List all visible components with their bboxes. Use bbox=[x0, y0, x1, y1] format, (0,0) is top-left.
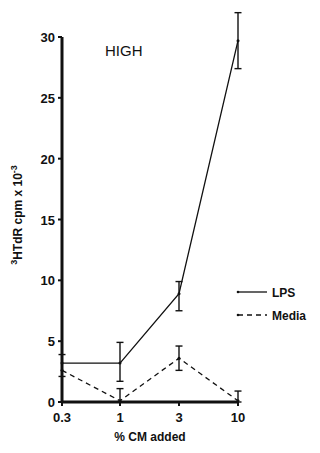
axes bbox=[61, 37, 239, 403]
y-axis-label: 3HTdR cpm x 10-3 bbox=[9, 165, 25, 265]
y-tick-label: 20 bbox=[41, 152, 55, 167]
x-ticks: 0.31310 bbox=[53, 402, 245, 425]
x-tick-label: 3 bbox=[175, 410, 182, 425]
series-line-media bbox=[62, 358, 238, 401]
chart: 051015202530 0.31310 HIGH % CM added 3HT… bbox=[0, 0, 320, 453]
legend-item-lps: LPS bbox=[237, 286, 296, 300]
y-tick-label: 15 bbox=[41, 213, 55, 228]
series-line-lps bbox=[62, 41, 238, 363]
legend-label: Media bbox=[272, 309, 306, 323]
legend-label: LPS bbox=[272, 286, 295, 300]
y-tick-label: 25 bbox=[41, 91, 55, 106]
y-tick-label: 10 bbox=[41, 273, 55, 288]
chart-annotation: HIGH bbox=[105, 42, 143, 59]
x-tick-label: 0.3 bbox=[53, 410, 71, 425]
y-ticks: 051015202530 bbox=[41, 30, 62, 410]
y-tick-label: 30 bbox=[41, 30, 55, 45]
y-axis-label-main: HTdR cpm x 10 bbox=[11, 173, 25, 260]
series-media bbox=[59, 346, 242, 402]
legend-marker bbox=[237, 291, 240, 294]
legend: LPSMedia bbox=[237, 286, 307, 323]
y-axis-label-exponent: -3 bbox=[9, 165, 19, 173]
y-axis-label-text: 3HTdR cpm x 10-3 bbox=[9, 165, 25, 265]
y-tick-label: 5 bbox=[48, 334, 55, 349]
y-tick-label: 0 bbox=[48, 395, 55, 410]
series-lps bbox=[61, 13, 242, 382]
x-tick-label: 1 bbox=[116, 410, 123, 425]
x-tick-label: 10 bbox=[231, 410, 245, 425]
series-group bbox=[59, 13, 242, 403]
legend-item-media: Media bbox=[237, 309, 307, 323]
x-axis-label: % CM added bbox=[114, 430, 185, 444]
legend-marker bbox=[237, 314, 240, 317]
